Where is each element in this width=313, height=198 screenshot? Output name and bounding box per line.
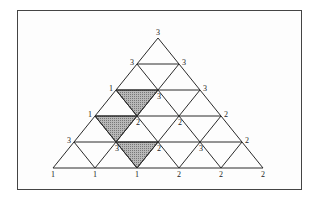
grid-edge [74,116,95,142]
vertex-label: 3 [130,58,134,67]
grid-edge [200,116,221,142]
vertex-label: 1 [135,170,139,179]
vertex-label: 2 [177,170,181,179]
vertex-label: 2 [178,118,182,127]
grid-edge [95,142,116,168]
grid-edge [158,38,179,64]
grid-edge [158,116,179,142]
grid-edge [200,90,221,116]
grid-edge [221,142,242,168]
vertex-label: 2 [219,170,223,179]
vertex-label: 3 [199,144,203,153]
grid-edge [179,142,200,168]
vertex-label: 1 [93,170,97,179]
grid-edge [53,142,74,168]
grid-edge [95,90,116,116]
grid-edge [179,64,200,90]
vertex-label: 3 [67,136,71,145]
grid-edge [137,64,158,90]
grid-edge [221,116,242,142]
grid-edge [116,64,137,90]
vertex-label: 1 [88,110,92,119]
grid-edge [158,90,179,116]
vertex-label: 2 [136,118,140,127]
vertex-label: 3 [156,28,160,37]
vertex-label: 3 [157,92,161,101]
grid-edge [179,90,200,116]
vertex-label: 3 [203,84,207,93]
vertex-label: 2 [261,170,265,179]
vertex-label: 3 [115,144,119,153]
vertex-label: 2 [245,136,249,145]
grid-edge [137,116,158,142]
shaded-triangle [116,90,158,116]
vertex-label: 1 [51,170,55,179]
triangle-grid-diagram: 333133122233232111222 [0,0,313,198]
vertex-label: 2 [224,110,228,119]
grid-edge [158,64,179,90]
vertex-label: 1 [109,84,113,93]
grid-edge [137,38,158,64]
grid-edge [74,142,95,168]
grid-edge [242,142,263,168]
vertex-labels: 333133122233232111222 [51,28,265,179]
grid-edge [158,142,179,168]
grid-edge [179,116,200,142]
vertex-label: 3 [182,58,186,67]
vertex-label: 2 [157,144,161,153]
shaded-triangle [95,116,137,142]
grid-edge [200,142,221,168]
shaded-triangle [116,142,158,168]
